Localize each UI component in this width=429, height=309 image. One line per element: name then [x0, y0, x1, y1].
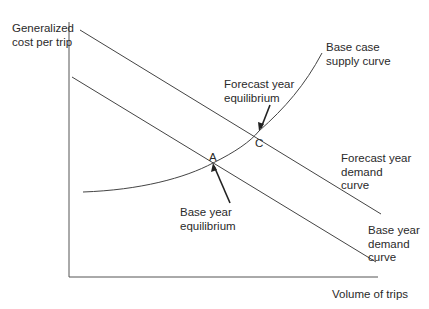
point-a-label: A	[209, 151, 217, 165]
x-axis-label: Volume of trips	[332, 288, 408, 302]
supply-curve	[83, 53, 322, 192]
forecast-demand-curve-label: Forecast year demand curve	[341, 152, 411, 193]
forecast-equilibrium-label: Forecast year equilibrium	[224, 78, 294, 105]
base-demand-curve-label: Base year demand curve	[368, 224, 420, 265]
y-axis-label: Generalized cost per trip	[12, 22, 74, 49]
supply-curve-label: Base case supply curve	[326, 41, 391, 68]
base-equilibrium-label: Base year equilibrium	[180, 206, 236, 233]
point-c-label: C	[255, 137, 263, 151]
